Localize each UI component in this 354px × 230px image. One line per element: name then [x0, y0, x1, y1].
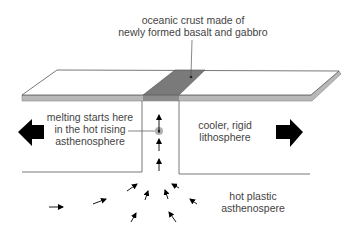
melting-label-line-2: in the hot rising: [47, 123, 133, 135]
asthenosphere-label: hot plastic asthenospere: [221, 190, 285, 214]
mantle-flow-arrows: [49, 184, 197, 222]
ridge-diagram: oceanic crust made of newly formed basal…: [0, 0, 354, 230]
oceanic-crust-label-line-1: oceanic crust made of: [118, 14, 267, 26]
right-plate-motion-arrow-icon: [276, 119, 303, 147]
melting-label-line-3: asthenosphere: [47, 135, 133, 147]
mantle-flow-arrow-icon: [93, 199, 106, 204]
crust-leader-dot: [190, 76, 193, 79]
mantle-flow-arrow-icon: [165, 190, 168, 199]
oceanic-crust-label-line-2: newly formed basalt and gabbro: [118, 26, 267, 38]
new-crust-edge: [143, 96, 179, 101]
mantle-flow-arrow-icon: [169, 212, 176, 222]
melting-label: melting starts here in the hot rising as…: [47, 111, 133, 147]
lithosphere-label-line-2: lithosphere: [198, 131, 252, 143]
mantle-flow-arrow-icon: [127, 184, 137, 191]
mantle-flow-arrow-icon: [172, 184, 179, 188]
mantle-flow-arrow-icon: [190, 199, 197, 204]
melting-label-line-1: melting starts here: [47, 111, 133, 123]
left-plate-motion-arrow-icon: [18, 119, 44, 146]
lithosphere-label: cooler, rigid lithosphere: [198, 119, 252, 143]
oceanic-crust-label: oceanic crust made of newly formed basal…: [118, 14, 267, 38]
mantle-flow-arrow-icon: [145, 191, 148, 200]
lithosphere-label-line-1: cooler, rigid: [198, 119, 252, 131]
asthenosphere-label-line-1: hot plastic: [221, 190, 285, 202]
asthenosphere-label-line-2: asthenospere: [221, 202, 285, 214]
mantle-flow-arrow-icon: [131, 213, 136, 222]
